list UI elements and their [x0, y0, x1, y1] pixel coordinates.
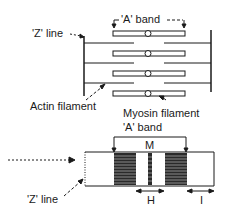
dark-band-right [165, 153, 187, 185]
m-line-band [148, 153, 152, 185]
dark-band-left [114, 153, 136, 185]
actin-filament-label: Actin filament [30, 101, 96, 112]
z-line-label-bottom: 'Z' line [27, 194, 58, 205]
i-band-label: I [200, 195, 203, 206]
a-band-label-top: 'A' band [121, 14, 160, 25]
a-band-label-bottom: 'A' band [123, 122, 162, 133]
myosin-filament-label: Myosin filament [123, 108, 199, 119]
m-line-label: M [145, 140, 154, 151]
h-zone-label: H [147, 195, 155, 206]
z-line-label-top: 'Z' line [32, 28, 63, 39]
